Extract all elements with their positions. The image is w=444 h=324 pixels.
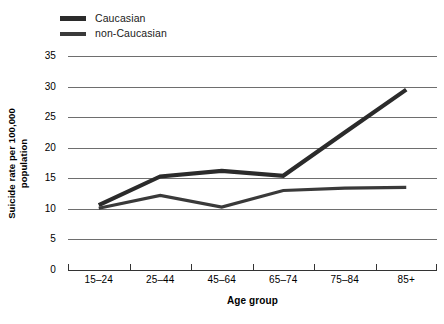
x-axis-ticks bbox=[68, 264, 437, 271]
legend-label-non-caucasian: non-Caucasian bbox=[95, 28, 167, 39]
y-tick-label-5: 5 bbox=[30, 234, 56, 244]
x-tick-3 bbox=[253, 264, 254, 271]
x-tick-label-0: 15–24 bbox=[85, 274, 113, 286]
series-lines bbox=[68, 56, 437, 270]
x-axis-tick-labels: 15–2425–4445–6465–7475–8485+ bbox=[68, 274, 437, 290]
y-tick-label-10: 10 bbox=[30, 204, 56, 214]
y-tick-label-0: 0 bbox=[30, 265, 56, 275]
y-axis-title-line1: Suicide rate per 100,000 bbox=[6, 108, 17, 219]
x-tick-label-2: 45–64 bbox=[208, 274, 236, 286]
line-chart: Caucasian non-Caucasian Suicide rate per… bbox=[0, 0, 444, 324]
y-tick-label-30: 30 bbox=[30, 82, 56, 92]
x-tick-6 bbox=[436, 264, 437, 271]
y-tick-label-35: 35 bbox=[30, 51, 56, 61]
y-tick-label-15: 15 bbox=[30, 173, 56, 183]
x-tick-label-4: 75–84 bbox=[331, 274, 359, 286]
legend-swatch-caucasian bbox=[60, 16, 86, 21]
chart-legend: Caucasian non-Caucasian bbox=[60, 11, 167, 41]
series-line-non-caucasian bbox=[99, 187, 407, 208]
x-axis-title: Age group bbox=[68, 295, 437, 306]
legend-item-non-caucasian: non-Caucasian bbox=[60, 26, 167, 41]
x-tick-0 bbox=[68, 264, 69, 271]
x-tick-5 bbox=[376, 264, 377, 271]
legend-item-caucasian: Caucasian bbox=[60, 11, 167, 26]
y-tick-label-20: 20 bbox=[30, 143, 56, 153]
x-tick-label-5: 85+ bbox=[398, 274, 415, 286]
legend-swatch-non-caucasian bbox=[60, 32, 86, 36]
y-axis-title-line2: population bbox=[17, 138, 28, 188]
x-tick-4 bbox=[314, 264, 315, 271]
y-axis-title: Suicide rate per 100,000 population bbox=[2, 56, 32, 270]
x-tick-label-3: 65–74 bbox=[269, 274, 297, 286]
y-tick-label-25: 25 bbox=[30, 112, 56, 122]
x-tick-label-1: 25–44 bbox=[146, 274, 174, 286]
x-tick-1 bbox=[130, 264, 131, 271]
legend-label-caucasian: Caucasian bbox=[95, 13, 146, 24]
y-axis-tick-labels: 05101520253035 bbox=[30, 0, 56, 324]
x-tick-2 bbox=[191, 264, 192, 271]
plot-area bbox=[68, 56, 437, 270]
